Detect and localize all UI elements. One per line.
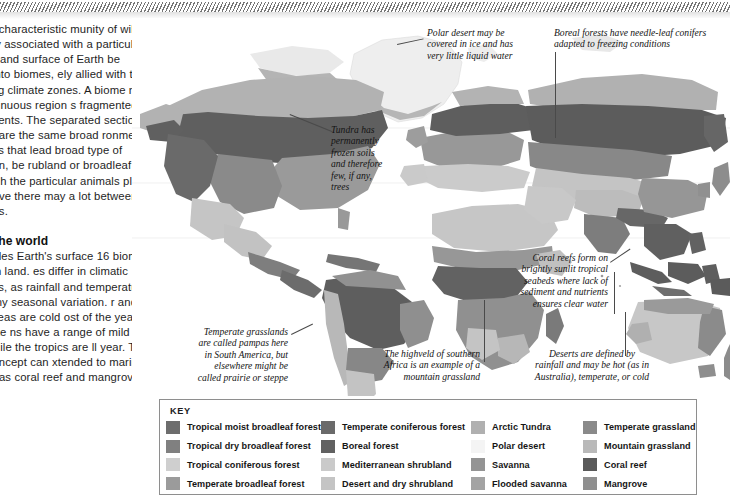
- key-swatch-arctic-tundra: [471, 421, 485, 434]
- scanned-book-page: ome is a characteristic munity of wildli…: [0, 0, 730, 495]
- annotation-boreal-forest: Boreal forests have needle-leaf conifers…: [554, 27, 730, 50]
- key-swatch-polar-desert: [471, 440, 485, 453]
- annotation-tundra: Tundra has permanently frozen soils and …: [331, 124, 397, 192]
- key-swatch-mediterranean-shrubland: [321, 458, 335, 471]
- key-column-4: Temperate grassland Mountain grassland C…: [583, 419, 703, 492]
- tasmania: [698, 364, 716, 378]
- key-item-boreal-forest[interactable]: Boreal forest: [321, 438, 471, 455]
- key-item-mountain-grassland[interactable]: Mountain grassland: [583, 438, 703, 455]
- key-swatch-flooded-savanna: [471, 477, 485, 490]
- key-label-tropical-dry-broadleaf-forest: Tropical dry broadleaf forest: [187, 441, 311, 451]
- key-label-temperate-grassland: Temperate grassland: [604, 422, 696, 432]
- key-swatch-coral-reef: [583, 458, 597, 471]
- mediterranean-shrubland: [422, 164, 530, 192]
- leader-line-coral-reef-vertical: [614, 272, 615, 314]
- key-column-1: Tropical moist broadleaf forest Tropical…: [166, 419, 321, 492]
- annotation-deserts: Deserts are defined by rainfall and may …: [508, 348, 676, 382]
- key-label-boreal-forest: Boreal forest: [342, 441, 399, 451]
- key-item-temperate-broadleaf-forest[interactable]: Temperate broadleaf forest: [166, 475, 321, 492]
- key-swatch-desert-and-dry-shrubland: [321, 477, 335, 490]
- key-label-mountain-grassland: Mountain grassland: [604, 441, 691, 451]
- key-item-tropical-moist-broadleaf-forest[interactable]: Tropical moist broadleaf forest: [166, 419, 321, 436]
- annotation-highveld: The highveld of southern Africa is an ex…: [353, 348, 480, 382]
- key-item-polar-desert[interactable]: Polar desert: [471, 438, 583, 455]
- key-swatch-mountain-grassland: [583, 440, 597, 453]
- leader-line-boreal-forest: [555, 52, 556, 138]
- annotation-temperate-grassland: Temperate grasslands are called pampas h…: [162, 326, 288, 383]
- annotation-polar-desert: Polar desert may be covered in ice and h…: [427, 27, 552, 61]
- key-swatch-boreal-forest: [321, 440, 335, 453]
- key-label-savanna: Savanna: [492, 460, 530, 470]
- key-swatch-tropical-coniferous-forest: [166, 458, 180, 471]
- key-label-polar-desert: Polar desert: [492, 441, 545, 451]
- island-speck-4: [619, 285, 621, 287]
- leader-line-deserts: [625, 312, 626, 356]
- key-label-arctic-tundra: Arctic Tundra: [492, 422, 551, 432]
- annotation-coral-reef: Coral reefs form on brightly sunlit trop…: [477, 252, 608, 309]
- key-swatch-temperate-broadleaf-forest: [166, 477, 180, 490]
- page-header-hatched-rule: [0, 2, 730, 12]
- key-column-2: Temperate coniferous forest Boreal fores…: [321, 419, 471, 492]
- key-title: KEY: [170, 406, 191, 416]
- key-item-coral-reef[interactable]: Coral reef: [583, 457, 703, 474]
- key-item-temperate-coniferous-forest[interactable]: Temperate coniferous forest: [321, 419, 471, 436]
- key-item-mangrove[interactable]: Mangrove: [583, 475, 703, 492]
- key-swatch-temperate-grassland: [583, 421, 597, 434]
- key-label-desert-and-dry-shrubland: Desert and dry shrubland: [342, 479, 453, 489]
- korea: [698, 182, 710, 198]
- key-label-coral-reef: Coral reef: [604, 460, 647, 470]
- key-item-tropical-dry-broadleaf-forest[interactable]: Tropical dry broadleaf forest: [166, 438, 321, 455]
- key-label-temperate-broadleaf-forest: Temperate broadleaf forest: [187, 479, 305, 489]
- map-key-panel: KEY Tropical moist broadleaf forest Trop…: [159, 399, 697, 495]
- key-columns: Tropical moist broadleaf forest Tropical…: [166, 419, 690, 492]
- key-label-mangrove: Mangrove: [604, 479, 647, 489]
- key-item-flooded-savanna[interactable]: Flooded savanna: [471, 475, 583, 492]
- key-label-flooded-savanna: Flooded savanna: [492, 479, 567, 489]
- key-item-savanna[interactable]: Savanna: [471, 457, 583, 474]
- key-label-mediterranean-shrubland: Mediterranean shrubland: [342, 460, 451, 470]
- key-swatch-tropical-dry-broadleaf-forest: [166, 440, 180, 453]
- key-swatch-savanna: [471, 458, 485, 471]
- leader-line-highveld: [484, 300, 485, 362]
- key-column-3: Arctic Tundra Polar desert Savanna Flood…: [471, 419, 583, 492]
- key-label-tropical-coniferous-forest: Tropical coniferous forest: [187, 460, 300, 470]
- key-swatch-temperate-coniferous-forest: [321, 421, 335, 434]
- key-label-tropical-moist-broadleaf-forest: Tropical moist broadleaf forest: [187, 422, 321, 432]
- key-swatch-mangrove: [583, 477, 597, 490]
- key-item-mediterranean-shrubland[interactable]: Mediterranean shrubland: [321, 457, 471, 474]
- key-swatch-tropical-moist-broadleaf-forest: [166, 421, 180, 434]
- key-label-temperate-coniferous-forest: Temperate coniferous forest: [342, 422, 465, 432]
- new-guinea: [710, 278, 730, 296]
- key-item-arctic-tundra[interactable]: Arctic Tundra: [471, 419, 583, 436]
- key-item-temperate-grassland[interactable]: Temperate grassland: [583, 419, 703, 436]
- key-item-tropical-coniferous-forest[interactable]: Tropical coniferous forest: [166, 457, 321, 474]
- key-item-desert-and-dry-shrubland[interactable]: Desert and dry shrubland: [321, 475, 471, 492]
